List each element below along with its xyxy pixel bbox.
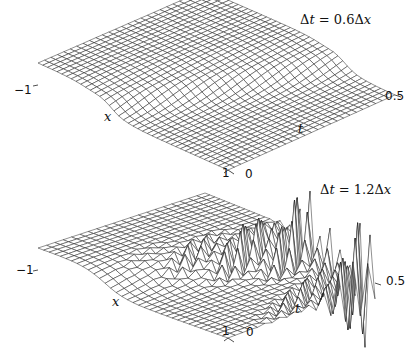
x-axis-label-top: x bbox=[104, 109, 111, 124]
surface-mesh-bottom bbox=[0, 180, 413, 357]
equation-label-bottom: Δt = 1.2Δx bbox=[320, 182, 391, 197]
x-axis-label-bottom: x bbox=[112, 294, 119, 309]
surface-mesh-top bbox=[0, 0, 413, 180]
x-tick-max-bottom: 1 bbox=[222, 324, 230, 338]
x-tick-min-bottom: −1 bbox=[16, 263, 34, 277]
x-tick-max-top: 1 bbox=[222, 166, 230, 180]
axis-tick bbox=[375, 283, 381, 285]
t-tick-max-bottom: 0.5 bbox=[386, 274, 405, 288]
t-axis-label-top: t bbox=[298, 121, 303, 136]
axis-tick bbox=[33, 85, 38, 86]
axis-tick bbox=[228, 338, 234, 342]
surface-plot-unstable: Δt = 1.2Δx −1 x t 1 0 0.5 bbox=[0, 180, 413, 357]
t-tick-min-top: 0 bbox=[245, 167, 253, 181]
axis-tick bbox=[33, 270, 38, 271]
t-tick-max-top: 0.5 bbox=[385, 89, 404, 103]
x-tick-min-top: −1 bbox=[14, 83, 32, 97]
surface-plot-stable: Δt = 0.6Δx −1 x t 1 0 0.5 bbox=[0, 0, 413, 180]
t-tick-min-bottom: 0 bbox=[246, 325, 254, 339]
axis-tick bbox=[224, 338, 228, 341]
equation-label-top: Δt = 0.6Δx bbox=[300, 12, 371, 27]
t-axis-label-bottom: t bbox=[295, 301, 300, 316]
